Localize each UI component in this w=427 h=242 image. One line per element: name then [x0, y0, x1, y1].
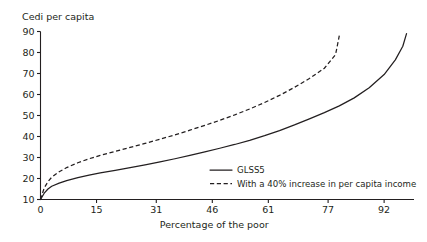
y-tick-label: 10 [22, 194, 34, 205]
x-axis-title: Percentage of the poor [160, 219, 269, 230]
x-tick-label: 77 [322, 204, 334, 215]
chart-figure: Cedi per capita1020304050607080900153146… [0, 0, 427, 242]
legend-label: With a 40% increase in per capita income [237, 179, 416, 189]
x-tick-label: 46 [206, 204, 218, 215]
line-chart-canvas: Cedi per capita1020304050607080900153146… [0, 0, 427, 242]
y-tick-label: 20 [22, 173, 34, 184]
legend-label: GLSS5 [237, 165, 265, 175]
y-tick-label: 60 [22, 89, 34, 100]
x-tick-label: 61 [262, 204, 274, 215]
x-tick-label: 0 [37, 204, 43, 215]
x-tick-label: 92 [378, 204, 390, 215]
y-tick-label: 70 [22, 68, 34, 79]
y-tick-label: 30 [22, 152, 34, 163]
y-tick-label: 40 [22, 131, 34, 142]
y-tick-label: 90 [22, 26, 34, 37]
legend-entry: GLSS5 [210, 165, 265, 175]
x-tick-label: 15 [90, 204, 102, 215]
y-tick-label: 80 [22, 47, 34, 58]
series-line-2 [41, 36, 340, 200]
x-tick-label: 31 [150, 204, 162, 215]
legend-entry: With a 40% increase in per capita income [210, 179, 416, 189]
series-line-1 [41, 34, 407, 200]
y-tick-label: 50 [22, 110, 34, 121]
y-axis-title: Cedi per capita [22, 11, 94, 22]
